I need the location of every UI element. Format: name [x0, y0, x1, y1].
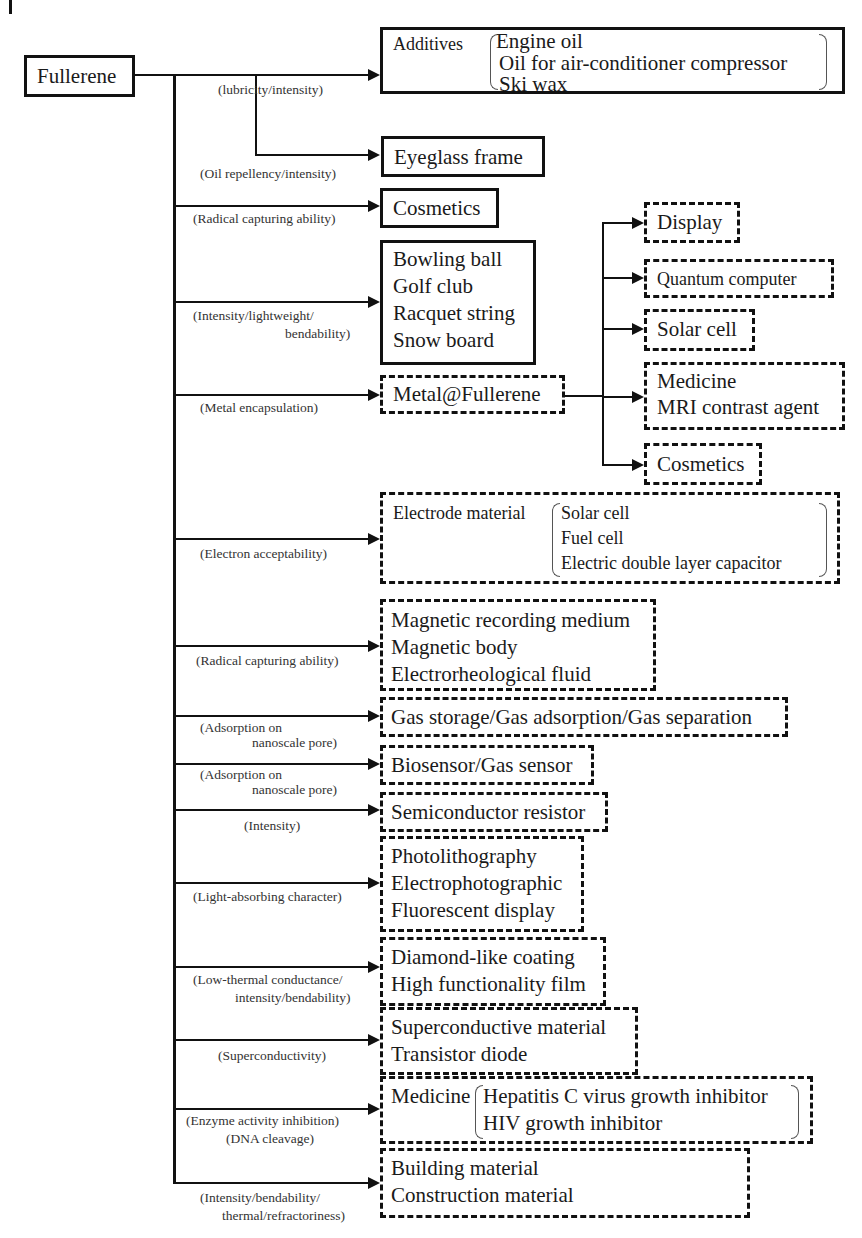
- property-label: thermal/refractoriness): [222, 1208, 345, 1224]
- connector: [175, 394, 370, 396]
- property-label: intensity/bendability): [235, 990, 350, 1006]
- right-brace-icon: [819, 34, 827, 90]
- item: HIV growth inhibitor: [483, 1110, 662, 1136]
- property-label: (Adsorption on: [200, 720, 282, 736]
- right-brace-icon: [791, 1085, 799, 1139]
- connector: [175, 1039, 370, 1041]
- arrow-icon: [368, 640, 380, 652]
- root-label: Fullerene: [37, 63, 116, 89]
- arrow-icon: [368, 1103, 380, 1115]
- item: Racquet string: [393, 300, 515, 326]
- property-label: (Superconductivity): [218, 1048, 326, 1064]
- group-label: Medicine: [391, 1083, 470, 1109]
- sub-connector: [564, 395, 602, 397]
- property-label: (Intensity/bendability/: [200, 1190, 320, 1206]
- connector: [602, 464, 634, 466]
- item: Transistor diode: [391, 1041, 527, 1067]
- connector: [255, 154, 370, 156]
- arrow-icon: [368, 804, 380, 816]
- node-diamond-coating: Diamond-like coating High functionality …: [380, 937, 606, 1006]
- node-additives: Additives Engine oil Oil for air-conditi…: [380, 27, 845, 94]
- node-medicine-mri: Medicine MRI contrast agent: [644, 362, 845, 430]
- property-label: (Oil repellency/intensity): [200, 166, 336, 182]
- node-gas-storage: Gas storage/Gas adsorption/Gas separatio…: [380, 697, 788, 737]
- property-label: (Intensity): [244, 818, 300, 834]
- item: Solar cell: [561, 501, 629, 525]
- connector: [175, 809, 370, 811]
- right-brace-icon: [819, 503, 827, 577]
- arrow-icon: [368, 200, 380, 212]
- connector: [175, 715, 370, 717]
- node-photolithography: Photolithography Electrophotographic Flu…: [380, 836, 584, 932]
- arrow-icon: [368, 961, 380, 973]
- connector: [175, 645, 370, 647]
- connector: [602, 396, 634, 398]
- connector: [602, 222, 634, 224]
- page-margin-mark: [9, 0, 12, 14]
- property-label: (Radical capturing ability): [193, 211, 335, 227]
- connector: [175, 205, 370, 207]
- item: Electric double layer capacitor: [561, 551, 781, 575]
- item: Ski wax: [499, 71, 567, 97]
- node-cosmetics: Cosmetics: [380, 188, 499, 228]
- left-brace-icon: [552, 503, 560, 577]
- arrow-icon: [368, 389, 380, 401]
- arrow-icon: [368, 758, 380, 770]
- arrow-icon: [368, 533, 380, 545]
- property-label: (lubricity/intensity): [218, 82, 323, 98]
- arrow-icon: [632, 323, 644, 335]
- node-cosmetics-future: Cosmetics: [644, 443, 762, 485]
- node-semiconductor: Semiconductor resistor: [380, 792, 608, 832]
- item: Hepatitis C virus growth inhibitor: [483, 1083, 768, 1109]
- arrow-icon: [632, 272, 644, 284]
- item: Fuel cell: [561, 526, 623, 550]
- item: Quantum computer: [657, 267, 796, 291]
- node-solar-cell: Solar cell: [644, 309, 755, 351]
- property-label: (DNA cleavage): [226, 1131, 314, 1147]
- property-label: (Adsorption on: [200, 767, 282, 783]
- item: Cosmetics: [657, 451, 745, 477]
- item: Semiconductor resistor: [391, 799, 585, 825]
- property-label: (Metal encapsulation): [200, 400, 318, 416]
- property-label: (Light-absorbing character): [193, 889, 342, 905]
- connector: [175, 301, 370, 303]
- node-sports-goods: Bowling ball Golf club Racquet string Sn…: [380, 240, 536, 365]
- arrow-icon: [632, 217, 644, 229]
- arrow-icon: [632, 459, 644, 471]
- item: Solar cell: [657, 316, 737, 342]
- connector: [175, 1108, 370, 1110]
- root-node-fullerene: Fullerene: [24, 55, 135, 97]
- connector: [175, 538, 370, 540]
- item: Metal@Fullerene: [393, 381, 541, 407]
- node-quantum-computer: Quantum computer: [644, 259, 834, 298]
- arrow-icon: [632, 391, 644, 403]
- property-label: nanoscale pore): [252, 735, 337, 751]
- arrow-icon: [368, 877, 380, 889]
- connector: [173, 1182, 370, 1184]
- connector: [175, 763, 370, 765]
- item: Photolithography: [391, 843, 537, 869]
- property-label: (Radical capturing ability): [196, 653, 338, 669]
- item: Gas storage/Gas adsorption/Gas separatio…: [391, 704, 752, 730]
- arrow-icon: [368, 296, 380, 308]
- item: Display: [657, 209, 722, 235]
- item: Diamond-like coating: [391, 944, 575, 970]
- item: Fluorescent display: [391, 897, 555, 923]
- left-brace-icon: [475, 1085, 483, 1139]
- node-display: Display: [644, 202, 740, 243]
- property-label: (Enzyme activity inhibition): [186, 1113, 339, 1129]
- node-metal-fullerene: Metal@Fullerene: [380, 375, 565, 414]
- node-magnetic: Magnetic recording medium Magnetic body …: [380, 599, 656, 691]
- connector: [175, 966, 370, 968]
- item: Cosmetics: [393, 195, 481, 221]
- arrow-icon: [368, 149, 380, 161]
- connector: [175, 882, 370, 884]
- arrow-icon: [368, 69, 380, 81]
- arrow-icon: [368, 710, 380, 722]
- item: Snow board: [393, 327, 494, 353]
- property-label: (Electron acceptability): [200, 546, 327, 562]
- item: Magnetic recording medium: [391, 607, 630, 633]
- connector: [602, 277, 634, 279]
- property-label: (Low-thermal conductance/: [193, 972, 343, 988]
- item: Magnetic body: [391, 634, 518, 660]
